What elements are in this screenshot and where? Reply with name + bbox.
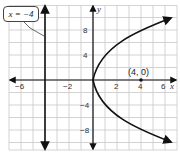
svg-text:−8: −8 — [80, 126, 90, 135]
y-axis-label: y — [96, 4, 101, 14]
chart: (4, 0) −6 −2 2 4 6 x 8 4 −4 −8 y — [0, 0, 180, 156]
x-axis-label: x — [169, 81, 174, 91]
svg-text:4: 4 — [83, 51, 88, 60]
svg-text:4: 4 — [138, 82, 143, 91]
svg-text:8: 8 — [83, 26, 88, 35]
svg-text:−6: −6 — [15, 82, 25, 91]
focus-label: (4, 0) — [128, 67, 149, 77]
svg-text:−4: −4 — [80, 101, 90, 110]
svg-text:6: 6 — [161, 82, 166, 91]
directrix-label: x = −4 — [3, 6, 39, 22]
x-tick-labels: −6 −2 2 4 6 — [15, 82, 166, 91]
svg-text:2: 2 — [114, 82, 119, 91]
svg-text:−2: −2 — [63, 82, 73, 91]
